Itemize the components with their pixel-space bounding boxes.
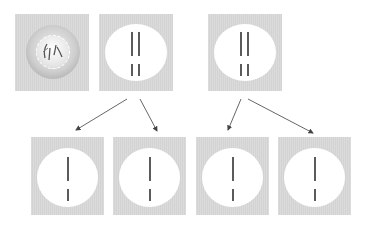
arrow-icon [76, 99, 127, 130]
arrow-icon [140, 99, 157, 131]
division-arrows [0, 0, 367, 230]
arrow-icon [248, 99, 313, 133]
arrow-icon [228, 99, 241, 130]
